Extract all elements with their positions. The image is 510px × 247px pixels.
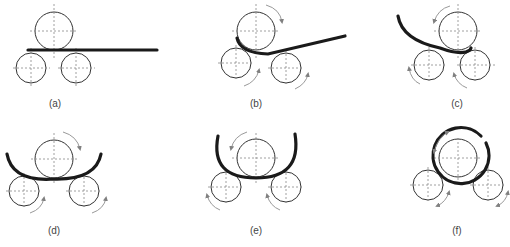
bottom-left-roller	[13, 48, 50, 86]
panel-label: (b)	[250, 98, 262, 109]
bottom-right-roller	[58, 48, 95, 86]
three-roll-bending-diagram: (a) (b)	[0, 0, 510, 247]
panel-c: (c)	[398, 4, 495, 109]
rotation-arrow-bottom-right	[92, 198, 106, 213]
panel-f: (f)	[410, 128, 508, 236]
panel-b: (b)	[218, 4, 345, 109]
top-roller	[31, 133, 78, 183]
panel-label: (c)	[451, 98, 463, 109]
panel-e: (e)	[207, 132, 304, 236]
panel-label: (a)	[49, 98, 61, 109]
panel-a: (a)	[13, 4, 157, 109]
rotation-arrow-bottom-left	[207, 195, 220, 210]
rotation-arrow-top	[434, 6, 450, 22]
rotation-arrow-bottom-left	[244, 70, 259, 86]
rotation-arrow-top	[63, 132, 80, 149]
plate	[433, 128, 489, 184]
bottom-right-roller	[268, 50, 304, 86]
rotation-arrow-bottom-right	[267, 195, 280, 210]
plate	[237, 36, 345, 54]
panel-label: (e)	[250, 225, 262, 236]
rotation-arrow-bottom-right	[295, 74, 308, 89]
panel-label: (d)	[48, 225, 60, 236]
rotation-arrow-bottom-left	[437, 192, 449, 206]
bottom-right-roller	[470, 167, 506, 203]
panel-label: (f)	[452, 225, 461, 236]
panel-d: (d)	[6, 132, 106, 236]
rotation-arrow-top	[231, 132, 247, 149]
bottom-left-roller	[411, 47, 447, 83]
rotation-arrow-bottom-left	[30, 198, 44, 213]
rotation-arrow-top	[266, 5, 282, 22]
rotation-arrow-bottom-right	[497, 192, 508, 206]
top-roller	[232, 4, 280, 58]
plate	[217, 134, 296, 178]
